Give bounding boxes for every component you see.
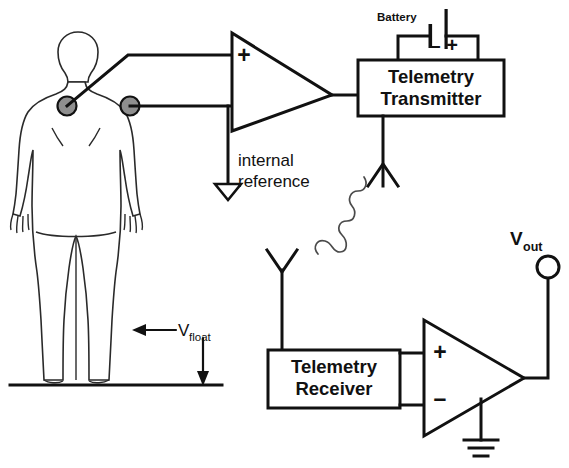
differential-amplifier-icon	[424, 320, 524, 436]
body-head	[58, 32, 98, 82]
antenna-icon	[368, 116, 398, 186]
output-terminal-icon	[537, 256, 559, 278]
telemetry-diagram: + internal reference Battery – + Telemet…	[0, 0, 569, 468]
rf-wave-icon	[315, 177, 366, 254]
vout-label-main: V	[510, 228, 523, 249]
output-amplifier-body	[424, 320, 524, 436]
output-amp-plus-label: +	[433, 339, 446, 365]
battery-wire-left	[398, 36, 430, 60]
transmitter-label-line1: Telemetry	[388, 66, 475, 87]
battery-label: Battery	[377, 11, 417, 23]
internal-reference-label-line1: internal	[238, 151, 294, 170]
input-amp-plus-label: +	[237, 42, 250, 68]
vfloat-left-arrowhead	[132, 324, 146, 336]
vfloat-label-sub: float	[189, 331, 212, 343]
body-left-hand	[11, 214, 29, 233]
body-right-hand	[124, 214, 142, 233]
rf-signal-wave	[315, 177, 366, 254]
output-amp-minus-label: –	[434, 385, 447, 411]
output-wire	[524, 278, 548, 378]
human-body-icon	[11, 32, 143, 383]
vout-terminal	[537, 256, 559, 278]
transmitter-label-line2: Transmitter	[381, 88, 482, 109]
battery-plus-sign: +	[446, 34, 458, 56]
internal-reference-label-line2: reference	[238, 172, 310, 191]
receiver-label-line2: Receiver	[295, 378, 372, 399]
antenna-icon	[267, 250, 297, 350]
vout-label-sub: out	[523, 240, 543, 254]
battery-minus-sign: –	[429, 34, 440, 56]
receiver-label-line1: Telemetry	[291, 356, 378, 377]
diagram-canvas: + internal reference Battery – + Telemet…	[0, 0, 569, 468]
